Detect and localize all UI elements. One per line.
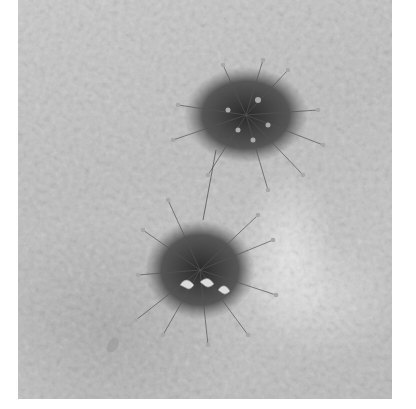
surface-texture [18, 0, 392, 399]
photo-content [18, 0, 392, 399]
photo [18, 0, 392, 399]
